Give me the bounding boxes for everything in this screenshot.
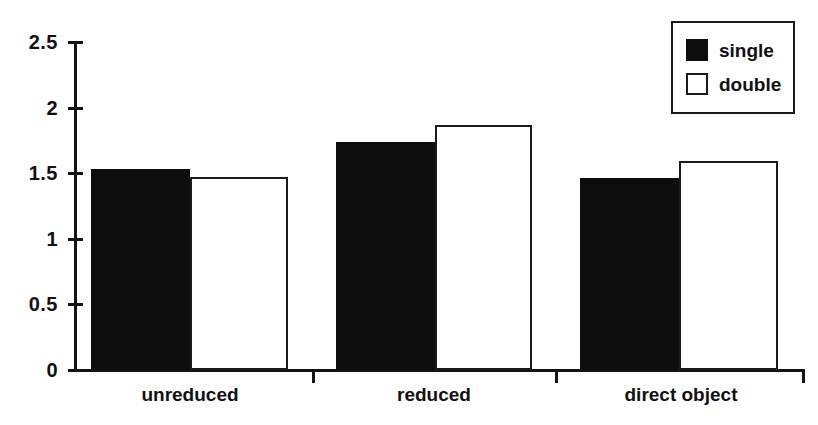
x-axis-category-unreduced: unreduced bbox=[100, 385, 280, 404]
x-axis-category-reduced: reduced bbox=[344, 385, 524, 404]
bar-unreduced-single bbox=[91, 169, 190, 370]
bar-reduced-double bbox=[435, 125, 532, 370]
x-axis-tick-1 bbox=[312, 369, 315, 383]
bar-reduced-single bbox=[336, 142, 435, 370]
y-axis-label-0: 0 bbox=[2, 360, 58, 380]
y-axis-label-0.5: 0.5 bbox=[2, 294, 58, 314]
x-axis-tick-3 bbox=[802, 369, 805, 383]
hollow-square-icon bbox=[686, 73, 708, 95]
y-axis-line bbox=[74, 42, 77, 372]
y-axis-tick-1 bbox=[68, 238, 83, 241]
legend-item-double: double bbox=[686, 67, 793, 101]
y-axis-label-1.5: 1.5 bbox=[2, 163, 58, 183]
legend-label-single: single bbox=[719, 41, 774, 60]
y-axis-tick-0.5 bbox=[68, 303, 83, 306]
bar-direct-object-double bbox=[679, 161, 778, 370]
chart-legend: single double bbox=[671, 21, 795, 114]
y-axis-label-1: 1 bbox=[2, 229, 58, 249]
legend-label-double: double bbox=[719, 75, 781, 94]
bar-chart: 2.5 2 1.5 1 0.5 0 unreduced reduced dire… bbox=[0, 0, 818, 425]
y-axis-tick-2.5 bbox=[68, 41, 83, 44]
x-axis-tick-2 bbox=[555, 369, 558, 383]
bar-direct-object-single bbox=[580, 178, 679, 370]
x-axis-category-direct-object: direct object bbox=[586, 385, 776, 404]
y-axis-label-2.5: 2.5 bbox=[2, 32, 58, 52]
filled-square-icon bbox=[686, 39, 708, 61]
legend-item-single: single bbox=[686, 33, 793, 67]
y-axis-label-2: 2 bbox=[2, 98, 58, 118]
y-axis-tick-1.5 bbox=[68, 172, 83, 175]
bar-unreduced-double bbox=[190, 177, 288, 370]
y-axis-tick-2 bbox=[68, 107, 83, 110]
